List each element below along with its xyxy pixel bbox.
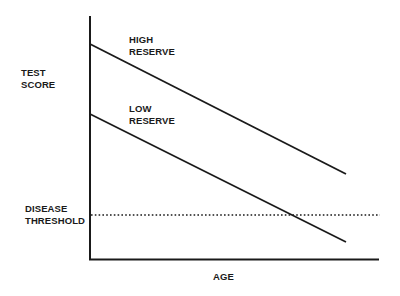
x-axis-label-text: AGE [213,271,234,283]
disease-threshold-label-line-2: THRESHOLD [25,215,85,227]
low-reserve-label: LOW RESERVE [129,103,175,126]
high-reserve-label: HIGH RESERVE [129,34,175,57]
disease-threshold-label-line-1: DISEASE [25,203,85,215]
y-axis-label-line-2: SCORE [21,79,55,91]
x-axis-label: AGE [213,271,234,283]
y-axis-label-line-1: TEST [21,67,55,79]
low-reserve-label-line-1: LOW [129,103,175,115]
high-reserve-label-line-2: RESERVE [129,46,175,58]
low-reserve-label-line-2: RESERVE [129,115,175,127]
high-reserve-label-line-1: HIGH [129,34,175,46]
low-reserve-line [90,114,346,242]
cognitive-reserve-diagram: TEST SCORE HIGH RESERVE LOW RESERVE DISE… [0,0,400,296]
diagram-canvas [0,0,400,296]
disease-threshold-label: DISEASE THRESHOLD [25,203,85,226]
y-axis-label: TEST SCORE [21,67,55,90]
